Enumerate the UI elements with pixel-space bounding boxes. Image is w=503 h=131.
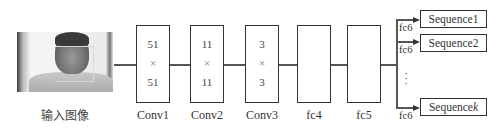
arrow-head-icon <box>413 39 420 45</box>
conv1-kernel-width: 51 <box>137 76 169 88</box>
sequence2-label: Sequence2 <box>429 37 479 49</box>
branch-line-2 <box>396 41 414 43</box>
face-detection-box <box>55 46 94 82</box>
conv1-block: 51 × 51 <box>136 25 170 103</box>
input-image-caption: 输入图像 <box>0 106 130 123</box>
conv3-label: Conv3 <box>235 108 289 123</box>
conv1-kernel-height: 51 <box>137 38 169 50</box>
connector-fc4-fc5 <box>331 64 347 66</box>
branch-trunk-line <box>396 19 398 108</box>
conv3-kernel-width: 3 <box>246 76 278 88</box>
sequence1-label: Sequence1 <box>429 13 479 25</box>
connector-input-conv1 <box>114 64 136 66</box>
input-face-image <box>17 32 113 92</box>
conv2-kernel-width: 11 <box>191 76 223 88</box>
fc4-block <box>297 25 331 103</box>
fc6-label-1: fc6 <box>399 22 412 33</box>
connector-conv3-fc4 <box>279 64 297 66</box>
sequence2-output-box: Sequence2 <box>420 34 487 52</box>
vertical-ellipsis-icon: ··· <box>403 71 409 86</box>
fc6-label-2: fc6 <box>399 44 412 55</box>
branch-line-1 <box>396 19 414 21</box>
conv2-kernel-height: 11 <box>191 38 223 50</box>
arrow-head-icon <box>413 17 420 23</box>
person-hair <box>55 32 89 46</box>
branch-line-k <box>396 107 414 109</box>
sequencek-label-index: k <box>473 101 478 113</box>
conv2-times-sign: × <box>191 57 223 69</box>
sequence1-output-box: Sequence1 <box>420 10 487 28</box>
sequencek-label-base: Sequence <box>429 101 473 113</box>
conv1-label: Conv1 <box>126 108 180 123</box>
fc4-label: fc4 <box>287 108 341 123</box>
connector-conv1-conv2 <box>170 64 190 66</box>
fc6-label-k: fc6 <box>399 110 412 121</box>
conv1-times-sign: × <box>137 57 169 69</box>
conv2-block: 11 × 11 <box>190 25 224 103</box>
sequencek-output-box: Sequencek <box>420 98 487 116</box>
conv2-label: Conv2 <box>180 108 234 123</box>
connector-fc5-branch <box>381 64 396 66</box>
conv3-kernel-height: 3 <box>246 38 278 50</box>
conv3-block: 3 × 3 <box>245 25 279 103</box>
connector-conv2-conv3 <box>224 64 245 66</box>
fc5-block <box>347 25 381 103</box>
fc5-label: fc5 <box>337 108 391 123</box>
arrow-head-icon <box>413 105 420 111</box>
conv3-times-sign: × <box>246 57 278 69</box>
